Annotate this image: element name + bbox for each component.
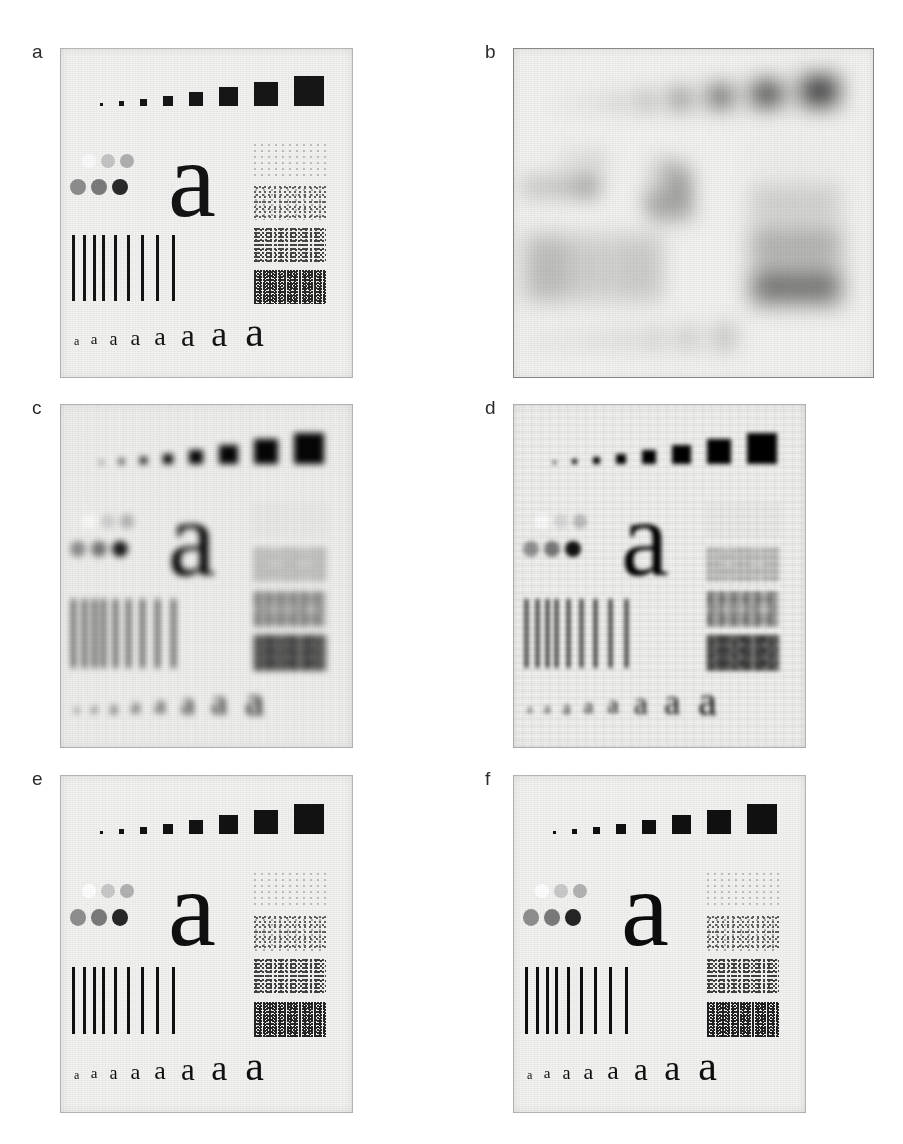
gray-dot-top	[82, 514, 96, 529]
texture-patch	[707, 959, 779, 994]
resolution-bar	[555, 967, 558, 1035]
gray-dot-bottom	[70, 909, 86, 925]
size-square	[672, 815, 691, 834]
gray-dot-bottom	[91, 909, 107, 925]
test-chart-image-e: aaaaaaaaa	[60, 775, 353, 1113]
resolution-bar	[141, 599, 144, 668]
size-square	[163, 454, 173, 464]
ramp-a-glyph: a	[245, 1045, 264, 1087]
test-chart-content: aaaaaaaaa	[60, 48, 353, 378]
ramp-a-glyph: a	[562, 1064, 570, 1082]
size-square	[119, 101, 124, 106]
test-chart-image-c: aaaaaaaaa	[60, 404, 353, 748]
gray-dot-bottom	[544, 909, 560, 925]
resolution-bar	[141, 235, 144, 301]
texture-patch	[707, 916, 779, 951]
panel-f: faaaaaaaaa	[485, 769, 806, 1113]
ramp-a-glyph: a	[527, 703, 532, 715]
size-square	[593, 457, 600, 464]
ramp-a-glyph: a	[154, 692, 166, 718]
panel-c: caaaaaaaaa	[32, 398, 353, 748]
size-square	[219, 87, 238, 106]
ramp-a-glyph: a	[698, 1045, 717, 1087]
gray-dot-bottom	[577, 179, 597, 195]
resolution-bar	[651, 235, 655, 301]
resolution-bar	[625, 967, 628, 1035]
resolution-bar	[102, 235, 105, 301]
test-chart-image-f: aaaaaaaaa	[513, 775, 806, 1113]
texture-patch	[707, 504, 779, 539]
resolution-bar	[93, 967, 96, 1035]
test-chart-content: aaaaaaaaa	[513, 404, 806, 748]
resolution-bar	[565, 235, 569, 301]
ramp-a-glyph: a	[74, 335, 79, 347]
ramp-a-glyph: a	[569, 330, 577, 348]
size-square	[100, 461, 103, 464]
resolution-bar	[536, 599, 539, 668]
texture-patch	[752, 186, 841, 220]
resolution-bar	[594, 599, 597, 668]
gray-dot-top	[573, 514, 587, 529]
gray-dot-top	[564, 154, 581, 168]
resolution-bar	[554, 235, 558, 301]
texture-patch	[707, 873, 779, 908]
size-square	[747, 433, 777, 464]
size-square	[612, 99, 621, 106]
gray-dot-top	[82, 154, 96, 168]
size-square	[752, 82, 782, 106]
resolution-bar	[83, 967, 86, 1035]
resolution-bar	[541, 235, 545, 301]
ramp-a-glyph: a	[679, 316, 695, 352]
resolution-bar	[631, 235, 635, 301]
size-square	[140, 99, 147, 106]
ramp-a-glyph: a	[154, 1058, 166, 1084]
size-square	[672, 445, 691, 465]
gray-dot-bottom	[112, 541, 128, 558]
gray-dot-top	[101, 884, 115, 898]
gray-dot-bottom	[112, 179, 128, 195]
texture-patch	[254, 916, 326, 951]
ramp-a-glyph: a	[211, 316, 227, 352]
size-square	[254, 810, 278, 835]
gray-dot-top	[587, 154, 604, 168]
panel-label-f: f	[485, 769, 490, 788]
size-square	[189, 820, 203, 834]
size-square	[616, 824, 626, 834]
panel-b: baaaaaaaaa	[485, 42, 874, 378]
ramp-a-glyph: a	[91, 1066, 98, 1081]
test-chart-content: aaaaaaaaa	[60, 404, 353, 748]
texture-patch	[254, 186, 326, 220]
ramp-a-glyph: a	[544, 701, 551, 716]
size-square	[640, 96, 652, 106]
ramp-a-glyph: a	[562, 699, 570, 717]
resolution-bar	[625, 599, 628, 668]
resolution-bar	[546, 599, 549, 668]
size-square	[294, 804, 324, 835]
ramp-a-glyph: a	[245, 311, 264, 353]
size-square	[119, 829, 124, 834]
texture-patch	[752, 228, 841, 262]
panel-label-a: a	[32, 42, 43, 61]
texture-patch	[707, 1002, 779, 1037]
gray-dot-top	[554, 514, 568, 529]
panel-a: aaaaaaaaaa	[32, 42, 353, 378]
ramp-a-glyph: a	[74, 703, 79, 715]
resolution-bar	[594, 967, 597, 1035]
resolution-bar	[536, 967, 539, 1035]
gray-dot-bottom	[551, 179, 571, 195]
resolution-bar	[127, 967, 130, 1035]
large-a-glyph: a	[168, 485, 216, 593]
resolution-bar	[141, 967, 144, 1035]
test-chart-image-d: aaaaaaaaa	[513, 404, 806, 748]
ramp-a-glyph: a	[583, 695, 593, 717]
ramp-a-glyph: a	[211, 1050, 227, 1086]
ramp-a-glyph: a	[527, 1069, 532, 1081]
resolution-bar	[93, 235, 96, 301]
gray-dot-top	[573, 884, 587, 898]
size-square	[553, 831, 556, 834]
ramp-a-glyph: a	[130, 695, 140, 717]
gray-dot-top	[535, 884, 549, 898]
resolution-bar	[613, 235, 617, 301]
ramp-a-glyph: a	[91, 332, 98, 347]
panel-label-e: e	[32, 769, 43, 788]
